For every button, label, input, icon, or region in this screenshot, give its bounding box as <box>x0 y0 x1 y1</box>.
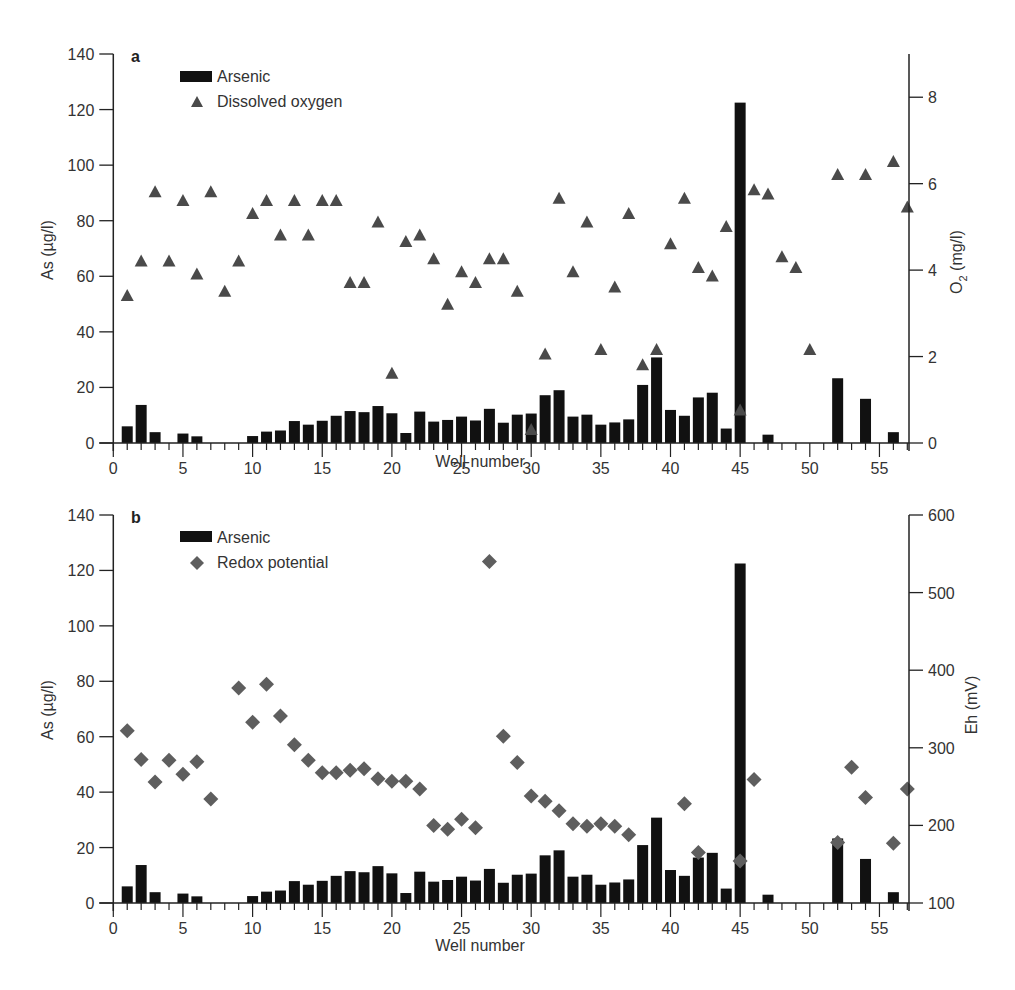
diamond-marker-well-7 <box>203 792 218 807</box>
panel-a-legend: Arsenic Dissolved oxygen <box>180 68 342 110</box>
bar-well-40 <box>665 870 676 903</box>
bar-well-6 <box>191 436 202 443</box>
bar-well-38 <box>637 845 648 903</box>
bar-well-23 <box>428 882 439 903</box>
bar-well-26 <box>470 420 481 443</box>
triangle-marker-well-48 <box>775 250 788 262</box>
triangle-marker-well-56 <box>887 155 900 167</box>
triangle-marker-well-29 <box>511 285 524 297</box>
y-tick-label: 100 <box>68 157 95 174</box>
legend-arsenic-label: Arsenic <box>217 529 270 546</box>
diamond-marker-well-46 <box>747 772 762 787</box>
panel-b-legend: Arsenic Redox potential <box>180 529 328 571</box>
panel-a-bars <box>122 103 899 443</box>
y-right-tick-label: 300 <box>928 740 955 757</box>
y-right-tick-label: 6 <box>928 176 937 193</box>
bar-well-12 <box>275 430 286 443</box>
diamond-marker-well-10 <box>245 715 260 730</box>
y-tick-label: 140 <box>68 507 95 524</box>
diamond-marker-well-24 <box>440 822 455 837</box>
triangle-marker-well-2 <box>135 254 148 266</box>
triangle-marker-well-36 <box>608 280 621 292</box>
triangle-icon <box>191 96 203 107</box>
y-tick-label: 120 <box>68 562 95 579</box>
bar-well-39 <box>651 357 662 443</box>
bar-well-28 <box>498 883 509 903</box>
diamond-marker-well-35 <box>593 816 608 831</box>
bar-well-43 <box>707 853 718 903</box>
bar-well-42 <box>693 858 704 903</box>
diamond-marker-well-33 <box>565 816 580 831</box>
panel-b-bars <box>122 564 899 904</box>
triangle-marker-well-22 <box>413 229 426 241</box>
bar-well-26 <box>470 881 481 903</box>
x-tick-label: 5 <box>178 920 187 937</box>
diamond-icon <box>190 556 204 570</box>
x-tick-label: 10 <box>244 920 262 937</box>
bar-well-23 <box>428 422 439 443</box>
diamond-marker-well-14 <box>301 753 316 768</box>
y-tick-label: 100 <box>68 618 95 635</box>
triangle-marker-well-37 <box>622 207 635 219</box>
bar-well-38 <box>637 385 648 443</box>
bar-well-35 <box>595 885 606 903</box>
triangle-marker-well-31 <box>539 347 552 359</box>
bar-well-15 <box>317 881 328 903</box>
panel-b-x-title: Well number <box>435 937 525 954</box>
y-tick-label: 140 <box>68 46 95 63</box>
y-tick-label: 40 <box>77 784 95 801</box>
x-tick-label: 25 <box>453 920 471 937</box>
bar-well-22 <box>414 872 425 903</box>
diamond-marker-well-41 <box>677 796 692 811</box>
x-tick-label: 50 <box>801 460 819 477</box>
diamond-marker-well-54 <box>858 790 873 805</box>
bar-well-18 <box>359 872 370 903</box>
y-tick-label: 0 <box>85 895 94 912</box>
diamond-marker-well-22 <box>412 781 427 796</box>
bar-well-25 <box>456 417 467 443</box>
panel-b-y-title: As (µg/l) <box>39 680 56 740</box>
diamond-marker-well-30 <box>524 788 539 803</box>
y-right-tick-label: 600 <box>928 507 955 524</box>
y-tick-label: 20 <box>77 840 95 857</box>
triangle-marker-well-20 <box>385 367 398 379</box>
diamond-marker-well-21 <box>398 774 413 789</box>
y-tick-label: 60 <box>77 729 95 746</box>
triangle-marker-well-19 <box>371 216 384 228</box>
bar-well-29 <box>512 875 523 903</box>
bar-well-12 <box>275 891 286 903</box>
bar-well-41 <box>679 416 690 443</box>
triangle-marker-well-49 <box>789 261 802 273</box>
triangle-marker-well-28 <box>497 252 510 264</box>
bar-well-32 <box>554 390 565 443</box>
triangle-marker-well-46 <box>748 183 761 195</box>
bar-well-13 <box>289 421 300 443</box>
bar-well-21 <box>400 893 411 903</box>
diamond-marker-well-28 <box>496 729 511 744</box>
bar-well-56 <box>888 892 899 903</box>
bar-well-15 <box>317 421 328 443</box>
x-tick-label: 50 <box>801 920 819 937</box>
bar-well-56 <box>888 432 899 443</box>
diamond-marker-well-2 <box>134 752 149 767</box>
bar-well-37 <box>623 879 634 903</box>
diamond-marker-well-20 <box>384 774 399 789</box>
bar-well-45 <box>735 103 746 443</box>
y-tick-label: 120 <box>68 102 95 119</box>
x-tick-label: 15 <box>313 920 331 937</box>
bar-well-22 <box>414 412 425 443</box>
bar-well-33 <box>567 877 578 903</box>
triangle-marker-well-11 <box>260 194 273 206</box>
triangle-marker-well-39 <box>650 343 663 355</box>
x-tick-label: 30 <box>522 920 540 937</box>
diamond-marker-well-12 <box>273 708 288 723</box>
triangle-marker-well-1 <box>121 289 134 301</box>
bar-well-47 <box>763 895 774 903</box>
diamond-marker-well-37 <box>621 827 636 842</box>
bar-well-5 <box>177 894 188 903</box>
panel-a-y-right-title: O2 (mg/l) <box>948 230 969 294</box>
x-tick-label: 45 <box>731 920 749 937</box>
diamond-marker-well-57 <box>900 781 915 796</box>
bar-well-27 <box>484 409 495 443</box>
bar-well-21 <box>400 433 411 443</box>
